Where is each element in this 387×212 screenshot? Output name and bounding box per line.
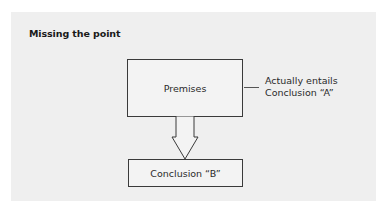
premises-annotation: Actually entails Conclusion “A”	[265, 75, 338, 99]
conclusion-b-box: Conclusion “B”	[128, 159, 243, 187]
annotation-line-1: Actually entails	[265, 75, 338, 87]
diagram-title: Missing the point	[29, 28, 120, 39]
premises-label: Premises	[164, 83, 207, 94]
down-arrow-icon	[170, 116, 200, 160]
premises-box: Premises	[127, 59, 243, 117]
conclusion-b-label: Conclusion “B”	[150, 168, 220, 179]
annotation-line-2: Conclusion “A”	[265, 87, 338, 99]
annotation-connector-line	[244, 87, 259, 88]
